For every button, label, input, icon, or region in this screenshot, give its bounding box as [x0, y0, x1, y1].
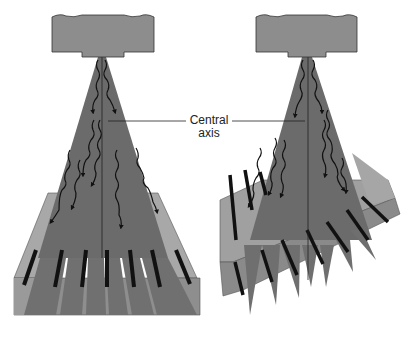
right-xray-beam: [250, 57, 372, 240]
left-xray-tube: [52, 15, 154, 57]
central-axis-label-line2: axis: [186, 127, 232, 140]
left-grid-strips: [24, 258, 197, 315]
diagram-canvas: [0, 0, 416, 339]
right-xray-tube: [256, 15, 357, 57]
left-xray-beam: [38, 57, 168, 258]
left-panel: [14, 15, 200, 315]
right-panel: [220, 15, 400, 315]
central-axis-label: Central axis: [186, 114, 232, 140]
